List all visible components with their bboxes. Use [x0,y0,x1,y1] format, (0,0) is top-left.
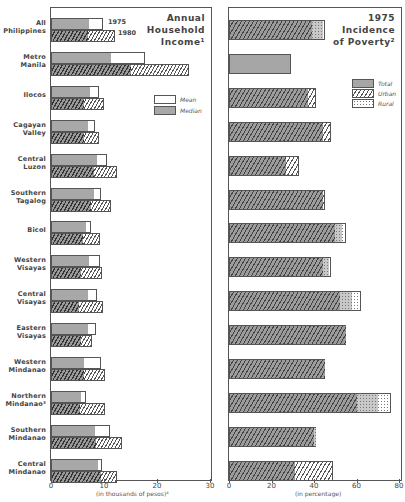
bar-total [229,223,335,243]
tick-label: 0 [49,482,53,490]
row-label: MetroManila [0,53,46,69]
bar-1980-median [51,200,91,212]
row-label-line: Mindanao [0,468,46,476]
row-label-line: Mindanao³ [0,400,46,408]
tick-label: 20 [153,482,162,490]
bar-1980-median [51,471,101,483]
row-label-line: Southern [0,189,46,197]
bar-1980-median [51,369,84,381]
row-label: EasternVisayas [0,324,46,340]
legend-swatch-total [352,79,374,88]
row-label: WesternVisayas [0,256,46,272]
bar-total [229,359,325,379]
income-chart-frame: Annual Household Income¹ 1975 1980 Mean … [50,7,212,481]
row-label-line: Bicol [0,226,46,234]
tick-label: 60 [352,482,361,490]
legend-swatch-rural [352,99,374,108]
bar-total [229,54,291,74]
title-line: Incidence [333,24,395,36]
bar-1980-median [51,437,96,449]
tick-label: 40 [310,482,319,490]
poverty-chart-title: 1975 Incidence of Poverty² [333,12,395,48]
bar-1975-median [51,120,88,132]
bar-total [229,20,312,40]
row-label-line: Northern [0,392,46,400]
bar-1975-median [51,459,98,471]
row-label: NorthernMindanao³ [0,392,46,408]
row-label-line: Ilocos [0,91,46,99]
title-line: Annual [147,12,205,24]
bar-total [229,291,340,311]
title-line: Income¹ [147,36,205,48]
tick-label: 10 [100,482,109,490]
year-label-1980: 1980 [118,29,136,37]
row-label: CentralLuzon [0,155,46,171]
row-label-line: Mindanao [0,366,46,374]
legend-swatch-mean [154,95,176,104]
bar-1975-median [51,357,84,369]
bar-total [229,156,286,176]
row-label: Ilocos [0,91,46,99]
bar-1980-median [51,132,84,144]
row-label: SouthernMindanao [0,426,46,442]
row-label: CagayanValley [0,121,46,137]
tick-label: 20 [267,482,276,490]
legend-label-urban: Urban [378,90,396,97]
legend-label-mean: Mean [180,96,196,103]
year-label-1975: 1975 [108,18,126,26]
row-label-line: Metro [0,53,46,61]
bar-1975-median [51,188,94,200]
bar-total [229,257,323,277]
bar-1980-median [51,301,79,313]
bar-total [229,325,346,345]
bar-1980-median [51,267,81,279]
income-chart-title: Annual Household Income¹ [147,12,205,48]
tick-label: 30 [206,482,215,490]
row-label: AllPhilippines [0,19,46,35]
bar-1975-median [51,154,97,166]
row-label-line: Western [0,358,46,366]
row-label-line: Central [0,460,46,468]
title-line: 1975 [333,12,395,24]
row-label-line: Central [0,155,46,163]
row-label-line: Luzon [0,163,46,171]
poverty-x-axis-label: (in percentage) [295,490,341,497]
row-label-line: Visayas [0,332,46,340]
bar-1975-median [51,323,88,335]
row-label-line: Valley [0,129,46,137]
row-label-line: Central [0,290,46,298]
bar-total [229,122,323,142]
legend-label-total: Total [378,80,392,87]
bar-1975-median [51,18,89,30]
bar-1975-median [51,289,88,301]
bar-total [229,427,314,447]
row-label: SouthernTagalog [0,189,46,205]
bar-1980-median [51,335,81,347]
legend-label-median: Median [180,107,202,114]
legend-swatch-median [154,106,176,115]
row-label: Bicol [0,226,46,234]
bar-1975-median [51,255,89,267]
bar-1975-median [51,221,86,233]
row-label: WesternMindanao [0,358,46,374]
legend-swatch-urban [352,89,374,98]
title-line: of Poverty² [333,36,395,48]
row-label-line: All [0,19,46,27]
bar-1980-median [51,98,84,110]
row-label-line: Southern [0,426,46,434]
bar-1980-median [51,64,131,76]
bar-total [229,190,323,210]
poverty-chart-frame: 1975 Incidence of Poverty² Total Urban R… [228,7,402,481]
row-label-line: Manila [0,61,46,69]
bar-total [229,393,357,413]
title-line: Household [147,24,205,36]
income-x-axis-label: (in thousands of pesos)⁴ [96,490,169,497]
bar-1975-median [51,391,81,403]
row-label-line: Mindanao [0,434,46,442]
row-label: CentralVisayas [0,290,46,306]
legend-label-rural: Rural [378,100,394,107]
tick-label: 0 [227,482,231,490]
row-label-line: Cagayan [0,121,46,129]
row-label-line: Visayas [0,298,46,306]
row-label-line: Tagalog [0,197,46,205]
